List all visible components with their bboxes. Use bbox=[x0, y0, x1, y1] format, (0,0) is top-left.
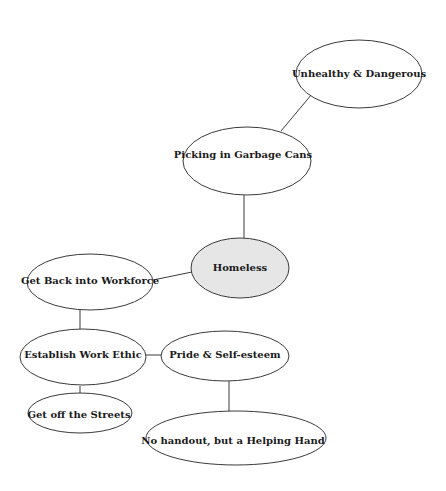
node-label: Picking in Garbage Cans bbox=[174, 149, 313, 160]
node-label: Pride & Self-esteem bbox=[169, 349, 281, 360]
node-label: Get off the Streets bbox=[27, 409, 131, 420]
node-get-back-into-workforce: Get Back into Workforce bbox=[21, 254, 159, 310]
node-helping-hand: No handout, but a Helping Hand bbox=[141, 411, 326, 465]
node-establish-work-ethic: Establish Work Ethic bbox=[20, 329, 146, 385]
node-label: Unhealthy & Dangerous bbox=[292, 68, 427, 79]
edge-picking-unhealthy bbox=[281, 94, 312, 131]
node-label: Establish Work Ethic bbox=[24, 349, 142, 360]
node-pride-self-esteem: Pride & Self-esteem bbox=[161, 331, 289, 381]
node-picking-garbage-cans: Picking in Garbage Cans bbox=[174, 127, 313, 195]
node-unhealthy-dangerous: Unhealthy & Dangerous bbox=[292, 40, 427, 108]
node-get-off-streets: Get off the Streets bbox=[27, 393, 132, 433]
node-label: Get Back into Workforce bbox=[21, 275, 159, 286]
node-homeless: Homeless bbox=[191, 238, 289, 298]
concept-map: Unhealthy & Dangerous Picking in Garbage… bbox=[0, 0, 446, 491]
node-label: No handout, but a Helping Hand bbox=[141, 435, 325, 447]
node-label: Homeless bbox=[213, 262, 268, 273]
